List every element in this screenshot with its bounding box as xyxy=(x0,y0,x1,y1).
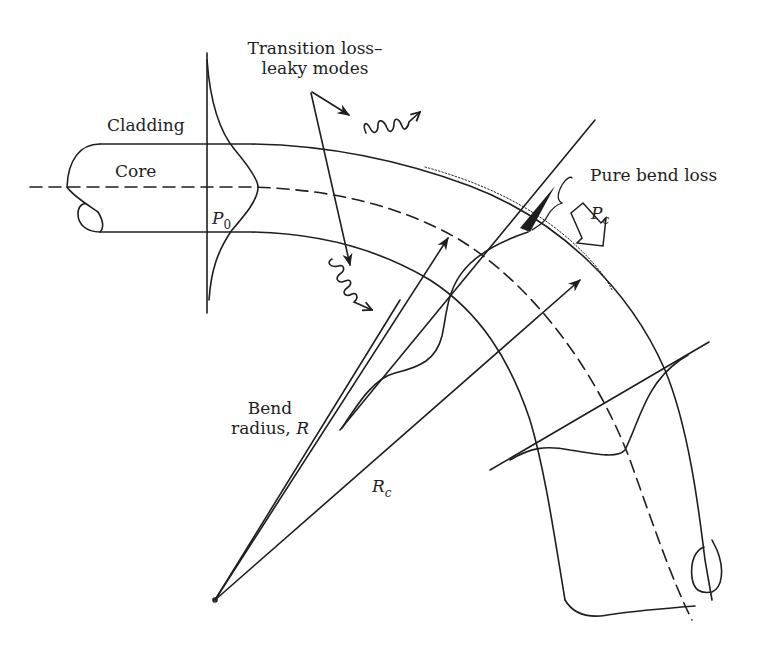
transition-loss-line2: leaky modes xyxy=(240,58,390,78)
fiber-bend-diagram xyxy=(0,0,762,648)
bend-section-mode-profile xyxy=(342,232,528,428)
transition-loss-line1: Transition loss– xyxy=(240,38,390,58)
cladding-label: Cladding xyxy=(107,115,185,135)
rc-label: Rc xyxy=(372,476,392,498)
p0-label: P0 xyxy=(212,208,231,230)
straight-section-mode-profile xyxy=(207,60,258,300)
cladding-outer-boundary xyxy=(100,144,712,600)
radiated-wave-bottom xyxy=(329,259,372,310)
transition-loss-label: Transition loss– leaky modes xyxy=(240,38,390,78)
radiated-tail-shaded xyxy=(520,186,555,232)
pure-bend-loss-brace xyxy=(532,177,572,230)
pc-symbol: P xyxy=(591,203,602,223)
transition-loss-pointer-1 xyxy=(312,92,349,115)
rc-symbol: R xyxy=(372,476,385,496)
pure-bend-loss-label: Pure bend loss xyxy=(590,165,717,185)
pc-subscript: c xyxy=(602,213,609,227)
p0-symbol: P xyxy=(212,208,223,228)
bend-radius-line-outer xyxy=(215,300,400,600)
bend-radius-text: radius, xyxy=(231,418,296,438)
radius-arrow-Rc xyxy=(215,280,580,600)
exit-section-axis xyxy=(490,342,709,470)
radiated-wave-top xyxy=(364,112,420,133)
rc-subscript: c xyxy=(385,486,392,500)
fiber-left-end xyxy=(67,144,103,232)
p0-subscript: 0 xyxy=(223,218,231,232)
bend-section-axis xyxy=(340,120,595,430)
bend-radius-line1: Bend xyxy=(220,398,320,418)
fiber-right-end xyxy=(565,540,722,616)
bend-radius-line2: radius, R xyxy=(220,418,320,438)
bend-radius-label: Bend radius, R xyxy=(220,398,320,438)
core-label: Core xyxy=(115,161,156,181)
pc-label: Pc xyxy=(591,203,609,225)
bend-radius-symbol: R xyxy=(296,418,309,438)
transition-loss-pointer-2 xyxy=(311,93,350,265)
